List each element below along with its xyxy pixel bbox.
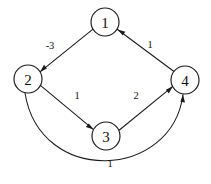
edge-3-to-4-arrowhead-icon: [166, 86, 173, 93]
edge-1-to-2-weight-label: -3: [46, 40, 55, 51]
edge-1-to-2: [40, 29, 93, 72]
graph-node-2[interactable]: 2: [14, 65, 42, 93]
edge-2-to-4-weight-label: 1: [107, 158, 112, 169]
node-3-label: 3: [102, 129, 110, 145]
graph-canvas: 1234 -31121: [0, 0, 211, 184]
graph-node-1[interactable]: 1: [91, 8, 119, 36]
edge-4-to-1-weight-label: 1: [147, 39, 152, 50]
node-2-label: 2: [24, 72, 32, 88]
edge-2-to-3-weight-label: 1: [74, 90, 79, 101]
edge-1-to-2-arrowhead-icon: [40, 65, 47, 72]
edge-2-to-4-arrowhead-icon: [180, 95, 185, 103]
nodes-layer: 1234: [14, 8, 199, 150]
edge-4-to-1: [118, 30, 175, 72]
graph-figure: 1234 -31121: [0, 0, 211, 184]
edge-3-to-4-weight-label: 2: [133, 90, 138, 101]
edge-2-to-3: [40, 85, 93, 129]
node-1-label: 1: [101, 15, 109, 31]
node-4-label: 4: [181, 73, 189, 89]
edge-3-to-4: [119, 86, 173, 130]
graph-node-4[interactable]: 4: [171, 66, 199, 94]
graph-node-3[interactable]: 3: [92, 122, 120, 150]
